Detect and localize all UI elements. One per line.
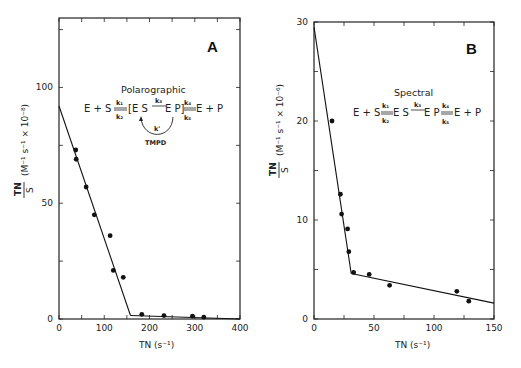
b-ylabel-frac-top: TN [268, 162, 278, 176]
data-point [111, 268, 116, 273]
scheme-a-left: E + S [84, 103, 111, 114]
a-ylabel-frac-top: TN [13, 182, 23, 196]
x-tick-label: 0 [311, 323, 317, 333]
a-ylabel-frac-bottom: S [25, 187, 35, 193]
x-tick-label: 50 [368, 323, 380, 333]
scheme-a-k4: k₄ [184, 99, 191, 107]
data-point [139, 312, 144, 317]
scheme-b-mid-left: E S [393, 107, 409, 118]
panel-a: 0100200300400050100 A Polarographic E + … [13, 18, 249, 350]
b-ylabel-units: (M⁻¹ s⁻¹ × 10⁻⁶) [275, 84, 285, 156]
data-point [73, 148, 78, 153]
panel-a-scheme-title: Polarographic [121, 84, 186, 95]
x-tick-label: 150 [485, 323, 502, 333]
panel-b-letter: B [466, 40, 477, 57]
scheme-a-k5: k₅ [184, 114, 191, 122]
panel-b-tick-labels: 0501001500102030 [297, 17, 503, 333]
scheme-a-right: E + P [196, 103, 223, 114]
scheme-b-k2: k₂ [382, 117, 389, 125]
panel-b-y-axis-label: TN S (M⁻¹ s⁻¹ × 10⁻⁶) [268, 84, 290, 178]
data-point [454, 289, 459, 294]
panel-a-frame [59, 18, 240, 319]
scheme-a-tmpd: TMPD [145, 139, 167, 147]
fit-line [351, 273, 494, 303]
data-point [346, 249, 351, 254]
data-point [162, 313, 167, 318]
y-tick-label: 10 [297, 215, 309, 225]
scheme-b-k3: k₃ [414, 101, 421, 109]
x-tick-label: 0 [56, 323, 62, 333]
data-point [330, 119, 335, 124]
panel-b-x-axis-label: TN (s⁻¹) [394, 340, 430, 350]
panel-b-scheme-title: Spectral [394, 87, 433, 98]
data-point [201, 315, 206, 320]
scheme-b-k4: k₄ [442, 102, 449, 110]
scheme-b-right: E + P [454, 107, 481, 118]
data-point [345, 227, 350, 232]
panel-a-reaction-scheme: Polarographic E + S k₁ k₂ [E S k₃ E P] k… [84, 84, 223, 147]
scheme-a-kprime: k' [154, 125, 160, 133]
x-tick-label: 400 [231, 323, 248, 333]
y-tick-label: 0 [47, 314, 53, 324]
x-tick-label: 100 [96, 323, 113, 333]
panel-b-data-points [330, 119, 472, 304]
data-point [121, 275, 126, 280]
fit-line [314, 27, 351, 274]
scheme-b-left: E + S [353, 107, 380, 118]
panel-b-frame [314, 22, 494, 319]
panel-a-x-axis-label: TN (s⁻¹) [138, 340, 174, 350]
data-point [387, 283, 392, 288]
scheme-a-k3: k₃ [155, 97, 162, 105]
figure-canvas: 0100200300400050100 A Polarographic E + … [0, 0, 521, 368]
scheme-b-mid-right: E P [424, 107, 440, 118]
data-point [108, 233, 113, 238]
scheme-a-k1: k₁ [116, 99, 123, 107]
y-tick-label: 0 [302, 314, 308, 324]
data-point [84, 185, 89, 190]
scheme-a-mid-right: E P] [165, 103, 185, 114]
x-tick-label: 300 [186, 323, 203, 333]
data-point [339, 212, 344, 217]
panel-b: 0501001500102030 B Spectral E + S k₁ k₂ … [268, 17, 503, 350]
scheme-b-k1: k₁ [382, 102, 389, 110]
scheme-a-k2: k₂ [116, 113, 123, 121]
panel-b-reaction-scheme: Spectral E + S k₁ k₂ E S k₃ E P k₄ k₅ E … [353, 87, 481, 126]
data-point [367, 272, 372, 277]
data-point [74, 157, 79, 162]
panel-a-fit-lines [59, 106, 240, 319]
x-tick-label: 200 [141, 323, 158, 333]
data-point [190, 314, 195, 319]
scheme-a-mid-left: [E S [128, 103, 148, 114]
b-ylabel-frac-bottom: S [280, 167, 290, 173]
fit-line [59, 106, 130, 316]
y-tick-label: 100 [36, 82, 53, 92]
y-tick-label: 30 [297, 17, 309, 27]
data-point [351, 270, 356, 275]
y-tick-label: 50 [42, 198, 54, 208]
panel-a-data-points [73, 148, 206, 320]
data-point [92, 212, 97, 217]
panel-b-ticks [314, 22, 494, 319]
x-tick-label: 100 [425, 323, 442, 333]
a-ylabel-units: (M⁻¹ s⁻¹ × 10⁻⁸) [20, 104, 30, 176]
data-point [338, 192, 343, 197]
y-tick-label: 20 [297, 116, 309, 126]
panel-b-fit-lines [314, 27, 494, 303]
panel-a-y-axis-label: TN S (M⁻¹ s⁻¹ × 10⁻⁸) [13, 104, 35, 198]
scheme-b-k5: k₅ [442, 118, 449, 126]
panel-a-ticks [59, 18, 240, 319]
data-point [466, 299, 471, 304]
panel-a-letter: A [207, 38, 218, 55]
